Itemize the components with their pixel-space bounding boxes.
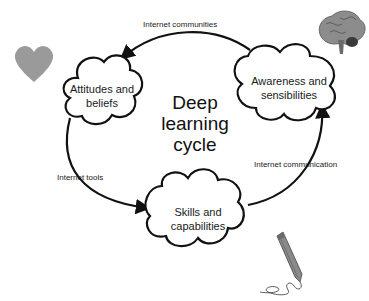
edge-label-internet-communities: Internet communities xyxy=(143,20,217,29)
brain-icon xyxy=(319,11,365,54)
heart-icon xyxy=(15,46,53,82)
diagram-title: Deep learning cycle xyxy=(150,92,240,155)
node-skills-line-2: capabilities xyxy=(158,219,238,233)
node-awareness-label: Awareness and sensibilities xyxy=(243,74,335,102)
pencil-icon xyxy=(260,232,302,295)
node-attitudes-line-2: beliefs xyxy=(66,96,138,110)
edge-internet-communities xyxy=(122,32,250,58)
edge-label-internet-communication: Internet communication xyxy=(254,160,337,169)
node-attitudes-label: Attitudes and beliefs xyxy=(66,82,138,110)
title-line-3: cycle xyxy=(150,134,240,155)
node-awareness-line-2: sensibilities xyxy=(243,88,335,102)
edge-internet-tools xyxy=(67,118,148,208)
node-skills-line-1: Skills and xyxy=(158,205,238,219)
node-awareness-line-1: Awareness and xyxy=(243,74,335,88)
edge-label-internet-tools: Internet tools xyxy=(57,173,103,182)
node-skills-label: Skills and capabilities xyxy=(158,205,238,233)
edge-internet-communication xyxy=(248,106,322,205)
title-line-1: Deep xyxy=(150,92,240,113)
title-line-2: learning xyxy=(150,113,240,134)
node-attitudes-line-1: Attitudes and xyxy=(66,82,138,96)
